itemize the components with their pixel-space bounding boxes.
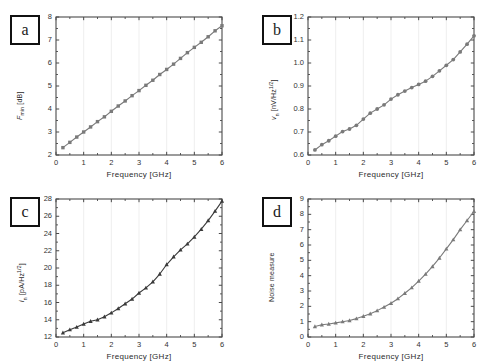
x-tick-label: 3 (129, 158, 149, 167)
y-tick-label: 0 (276, 332, 304, 341)
x-tick-label: 3 (381, 340, 401, 349)
y-tick-label: 1.2 (276, 12, 304, 21)
y-tick-label: 20 (24, 263, 52, 272)
x-tick-label: 5 (184, 158, 204, 167)
panel-a: a 01234562345678Frequency [GHz]Fmin [dB] (0, 0, 252, 182)
x-tick-label: 4 (157, 340, 177, 349)
x-tick-label: 3 (381, 158, 401, 167)
x-tick-label: 1 (326, 158, 346, 167)
y-tick-label: 24 (24, 229, 52, 238)
x-tick-label: 5 (436, 340, 456, 349)
x-tick-label: 1 (74, 158, 94, 167)
y-tick-label: 1.0 (276, 58, 304, 67)
y-tick-label: 3 (24, 127, 52, 136)
y-tick-label: 26 (24, 211, 52, 220)
x-tick-label: 0 (298, 158, 318, 167)
x-axis-label: Frequency [GHz] (56, 170, 222, 179)
plot-b: 01234560.60.70.80.91.01.11.2Frequency [G… (252, 0, 504, 182)
x-tick-label: 1 (74, 340, 94, 349)
y-tick-label: 0.7 (276, 127, 304, 136)
x-tick-label: 2 (353, 340, 373, 349)
y-tick-label: 2 (24, 150, 52, 159)
y-tick-label: 22 (24, 246, 52, 255)
y-tick-label: 1 (276, 317, 304, 326)
y-axis-label: Fmin [dB] (16, 91, 25, 120)
x-axis-label: Frequency [GHz] (308, 170, 474, 179)
x-tick-label: 5 (184, 340, 204, 349)
y-tick-label: 0.8 (276, 104, 304, 113)
figure-container: a 01234562345678Frequency [GHz]Fmin [dB]… (0, 0, 504, 364)
x-tick-label: 4 (409, 340, 429, 349)
y-tick-label: 2 (276, 301, 304, 310)
y-axis-label: vn [nV/Hz1/2] (268, 79, 280, 120)
x-tick-label: 6 (212, 158, 232, 167)
y-tick-label: 1.1 (276, 35, 304, 44)
x-tick-label: 0 (46, 340, 66, 349)
x-tick-label: 6 (464, 340, 484, 349)
y-tick-label: 14 (24, 315, 52, 324)
x-tick-label: 6 (464, 158, 484, 167)
panel-c: c 0123456121416182022242628Frequency [GH… (0, 182, 252, 364)
x-tick-label: 6 (212, 340, 232, 349)
x-tick-label: 4 (409, 158, 429, 167)
y-tick-label: 5 (276, 255, 304, 264)
y-axis-label: in [pA/Hz1/2] (16, 263, 28, 302)
y-tick-label: 4 (24, 104, 52, 113)
y-tick-label: 0.6 (276, 150, 304, 159)
y-tick-label: 7 (24, 35, 52, 44)
y-axis-label: Noise measure (268, 252, 275, 302)
x-tick-label: 5 (436, 158, 456, 167)
y-tick-label: 12 (24, 332, 52, 341)
y-tick-label: 3 (276, 286, 304, 295)
x-tick-label: 2 (353, 158, 373, 167)
x-axis-label: Frequency [GHz] (56, 352, 222, 361)
y-tick-label: 8 (276, 209, 304, 218)
plot-d: 01234560123456789Frequency [GHz]Noise me… (252, 182, 504, 364)
x-axis-label: Frequency [GHz] (308, 352, 474, 361)
y-tick-label: 6 (276, 240, 304, 249)
plot-c: 0123456121416182022242628Frequency [GHz]… (0, 182, 252, 364)
y-tick-label: 5 (24, 81, 52, 90)
y-tick-label: 9 (276, 194, 304, 203)
y-tick-label: 0.9 (276, 81, 304, 90)
x-tick-label: 1 (326, 340, 346, 349)
y-tick-label: 6 (24, 58, 52, 67)
x-tick-label: 0 (46, 158, 66, 167)
y-tick-label: 4 (276, 271, 304, 280)
x-tick-label: 0 (298, 340, 318, 349)
x-tick-label: 3 (129, 340, 149, 349)
panel-d: d 01234560123456789Frequency [GHz]Noise … (252, 182, 504, 364)
y-tick-label: 8 (24, 12, 52, 21)
x-tick-label: 2 (101, 158, 121, 167)
plot-a: 01234562345678Frequency [GHz]Fmin [dB] (0, 0, 252, 182)
x-tick-label: 4 (157, 158, 177, 167)
y-tick-label: 16 (24, 298, 52, 307)
y-tick-label: 28 (24, 194, 52, 203)
y-tick-label: 18 (24, 280, 52, 289)
y-tick-label: 7 (276, 225, 304, 234)
x-tick-label: 2 (101, 340, 121, 349)
panel-b: b 01234560.60.70.80.91.01.11.2Frequency … (252, 0, 504, 182)
